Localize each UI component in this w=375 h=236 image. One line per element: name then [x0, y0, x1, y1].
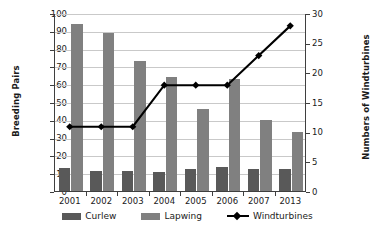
bar-curlew-2007 [248, 169, 260, 191]
chart-legend: CurlewLapwingWindturbines [0, 211, 375, 221]
gridline [55, 103, 305, 104]
legend-item-lapwing[interactable]: Lapwing [141, 211, 202, 221]
x-axis-tick-mark [149, 192, 150, 196]
bar-lapwing-2004 [166, 77, 178, 191]
legend-item-curlew[interactable]: Curlew [62, 211, 116, 221]
y-axis-right-title: Numbers of Windturbines [361, 32, 371, 162]
x-axis-tick-mark [243, 192, 244, 196]
y-axis-right-tick-label: 10 [312, 128, 336, 137]
legend-swatch-icon [141, 213, 160, 220]
y-axis-right-tick-mark [306, 133, 310, 134]
y-axis-right-tick-mark [306, 14, 310, 15]
bar-lapwing-2003 [134, 61, 146, 191]
legend-label: Curlew [85, 211, 116, 221]
gridline [55, 85, 305, 86]
legend-label: Lapwing [164, 211, 202, 221]
gridline [55, 32, 305, 33]
y-axis-right-tick-mark [306, 44, 310, 45]
bar-curlew-2005 [185, 169, 197, 191]
y-axis-left-title: Breeding Pairs [11, 51, 21, 151]
bar-lapwing-2007 [260, 120, 272, 191]
bar-lapwing-2006 [229, 79, 241, 191]
x-axis-tick-mark [275, 192, 276, 196]
x-axis-tick-label: 2013 [270, 196, 310, 206]
gridline [55, 50, 305, 51]
bar-lapwing-2001 [71, 24, 83, 191]
plot-area [54, 14, 306, 192]
y-axis-right-tick-label: 0 [312, 188, 336, 197]
bar-lapwing-2005 [197, 109, 209, 191]
bar-lapwing-2013 [292, 132, 304, 191]
x-axis-tick-mark [180, 192, 181, 196]
bar-lapwing-2002 [103, 33, 115, 191]
bar-curlew-2003 [122, 171, 134, 191]
bar-curlew-2002 [90, 171, 102, 191]
combo-chart: Breeding Pairs Numbers of Windturbines 0… [0, 0, 375, 236]
legend-line-diamond-icon [227, 212, 249, 220]
bar-curlew-2001 [59, 168, 71, 191]
bar-curlew-2013 [279, 169, 291, 191]
legend-item-windturbines[interactable]: Windturbines [227, 211, 313, 221]
y-axis-right-tick-mark [306, 162, 310, 163]
legend-label: Windturbines [253, 211, 313, 221]
gridline [55, 14, 305, 15]
y-axis-right-tick-label: 30 [312, 10, 336, 19]
x-axis-tick-mark [117, 192, 118, 196]
legend-swatch-icon [62, 213, 81, 220]
y-axis-right-tick-label: 20 [312, 69, 336, 78]
y-axis-right-tick-mark [306, 73, 310, 74]
x-axis-tick-mark [86, 192, 87, 196]
bar-curlew-2006 [216, 167, 228, 191]
y-axis-right-tick-label: 25 [312, 39, 336, 48]
y-axis-right-tick-label: 5 [312, 158, 336, 167]
gridline [55, 67, 305, 68]
x-axis-tick-mark [212, 192, 213, 196]
y-axis-left-tick-mark [50, 192, 54, 193]
y-axis-right-tick-mark [306, 103, 310, 104]
y-axis-right-tick-label: 15 [312, 99, 336, 108]
bar-curlew-2004 [153, 172, 165, 191]
y-axis-right-tick-mark [306, 192, 310, 193]
